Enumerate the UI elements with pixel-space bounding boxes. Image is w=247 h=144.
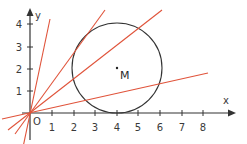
center-point xyxy=(116,67,118,69)
x-tick-label: 2 xyxy=(71,122,77,133)
x-tick-label: 6 xyxy=(157,122,163,133)
x-tick-label: 1 xyxy=(49,122,55,133)
x-axis-arrow-icon xyxy=(228,110,236,117)
y-tick-label: 3 xyxy=(16,42,22,53)
y-tick-label: 4 xyxy=(16,19,22,30)
y-tick-label: 1 xyxy=(16,86,22,97)
x-tick-label: 5 xyxy=(135,122,141,133)
x-tick-labels: 1 2 3 4 5 6 7 8 xyxy=(49,122,206,133)
y-tick-labels: 1 2 3 4 xyxy=(16,19,22,97)
line-tangent-upper xyxy=(15,10,105,134)
x-tick-label: 4 xyxy=(114,122,120,133)
y-axis-arrow-icon xyxy=(27,8,34,16)
geometry-diagram: 1 2 3 4 5 6 7 8 1 2 3 4 x y O M xyxy=(0,0,247,144)
x-tick-label: 8 xyxy=(200,122,206,133)
x-axis-label: x xyxy=(223,95,229,106)
y-axis-label: y xyxy=(35,10,41,21)
center-label: M xyxy=(120,69,130,82)
y-tick-label: 2 xyxy=(16,64,22,75)
line-tangent-lower xyxy=(2,73,208,119)
origin-label: O xyxy=(33,116,41,127)
x-tick-label: 3 xyxy=(92,122,98,133)
x-tick-label: 7 xyxy=(179,122,185,133)
